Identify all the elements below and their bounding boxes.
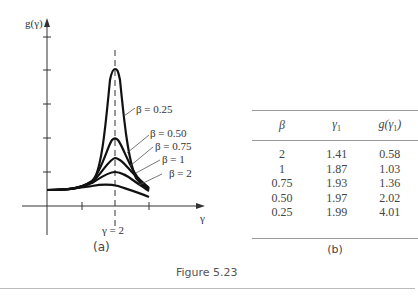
- y-axis-label: g(γ): [25, 17, 43, 30]
- plot-panel-a: β = 0.25 β = 0.50 β = 0.75 β = 1 β = 2 g…: [0, 0, 210, 260]
- curve-beta-0-50: [47, 139, 149, 191]
- table-header-rule: [252, 140, 418, 141]
- label-beta-2: β = 2: [169, 167, 192, 179]
- label-beta-0-50: β = 0.50: [150, 127, 187, 139]
- panel-b-caption: (b): [252, 243, 418, 256]
- x-axis-label: γ: [199, 212, 205, 224]
- table-row: 0.501.972.02: [252, 191, 418, 206]
- panel-a-caption: (a): [93, 240, 110, 254]
- y-axis-arrow-icon: [44, 18, 50, 27]
- curves: [47, 69, 149, 197]
- table-row: 0.751.931.36: [252, 176, 418, 191]
- header-g-gamma1: g(γ1): [362, 111, 418, 140]
- table-bottom-rule: [252, 238, 418, 239]
- header-beta: β: [252, 111, 312, 140]
- figure-caption: Figure 5.23: [176, 266, 238, 279]
- table-row: 0.251.994.01: [252, 205, 418, 220]
- x-axis-arrow-icon: [196, 203, 205, 209]
- table-row: 11.871.03: [252, 162, 418, 177]
- label-beta-1: β = 1: [162, 153, 185, 165]
- panel-b-table: β γ1 g(γ1) 21.410.58 11.871.03 0.751.931…: [252, 110, 418, 256]
- bottom-rule: [0, 288, 415, 289]
- header-gamma1: γ1: [312, 111, 362, 140]
- label-beta-0-25: β = 0.25: [136, 103, 173, 115]
- gamma-2-annotation: γ = 2: [101, 224, 124, 236]
- table-row: 21.410.58: [252, 147, 418, 162]
- label-beta-0-75: β = 0.75: [155, 140, 192, 152]
